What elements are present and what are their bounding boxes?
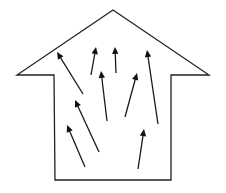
arrow-shaft — [78, 105, 99, 152]
arrowhead-icon — [145, 50, 151, 57]
arrow-shaft — [138, 135, 143, 169]
arrowhead-icon — [57, 52, 63, 60]
arrowhead-icon — [92, 47, 98, 54]
arrow-shaft — [69, 131, 85, 167]
upward-arrow — [145, 50, 158, 124]
arrow-shaft — [102, 77, 107, 121]
upward-arrow — [57, 52, 83, 94]
upward-arrow — [125, 73, 138, 117]
arrowhead-icon — [112, 47, 118, 54]
upward-arrow — [67, 125, 85, 167]
upward-arrow — [99, 71, 107, 121]
house-arrow-diagram — [0, 0, 226, 193]
internal-arrows-group — [57, 47, 158, 169]
arrow-shaft — [60, 57, 83, 94]
upward-arrow — [75, 100, 99, 152]
arrowhead-icon — [140, 129, 146, 136]
arrow-shaft — [125, 79, 135, 117]
arrowhead-icon — [132, 73, 138, 81]
arrowhead-icon — [99, 71, 105, 78]
arrow-shaft — [148, 56, 158, 124]
arrow-shaft — [115, 53, 116, 73]
upward-arrow — [112, 47, 118, 73]
upward-arrow — [91, 47, 98, 75]
arrow-shaft — [91, 53, 95, 75]
house-arrow-outline — [17, 10, 209, 180]
upward-arrow — [138, 129, 146, 169]
